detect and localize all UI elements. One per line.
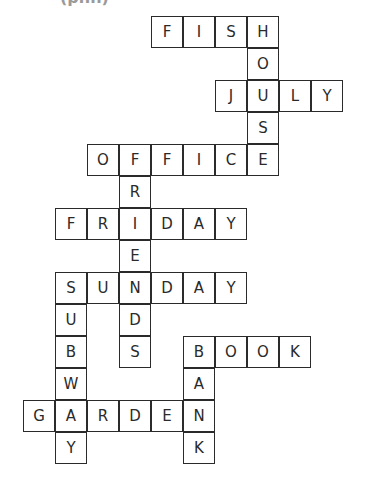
crossword-cell: F xyxy=(119,144,151,176)
crossword-cell: Y xyxy=(215,272,247,304)
crossword-cell: N xyxy=(183,400,215,432)
crossword-cell: R xyxy=(87,208,119,240)
crossword-cell: D xyxy=(151,272,183,304)
crossword-cell: F xyxy=(151,16,183,48)
crossword-cell: O xyxy=(247,48,279,80)
crossword-cell: E xyxy=(247,144,279,176)
crossword-cell: Y xyxy=(311,80,343,112)
crossword-cell: E xyxy=(151,400,183,432)
crossword-cell: K xyxy=(279,336,311,368)
crossword-grid: FISHOUSEJLYOFFICRIENDSFRDAYSUDAYUBWAYBOO… xyxy=(0,0,366,486)
crossword-cell: B xyxy=(183,336,215,368)
crossword-cell: O xyxy=(215,336,247,368)
crossword-cell: R xyxy=(87,400,119,432)
crossword-cell: I xyxy=(183,16,215,48)
crossword-cell: D xyxy=(119,400,151,432)
crossword-cell: D xyxy=(151,208,183,240)
crossword-cell: W xyxy=(55,368,87,400)
crossword-cell: G xyxy=(23,400,55,432)
crossword-cell: S xyxy=(247,112,279,144)
crossword-cell: D xyxy=(119,304,151,336)
crossword-cell: H xyxy=(247,16,279,48)
crossword-cell: A xyxy=(183,272,215,304)
crossword-cell: O xyxy=(87,144,119,176)
crossword-cell: U xyxy=(55,304,87,336)
crossword-cell: S xyxy=(215,16,247,48)
crossword-cell: K xyxy=(183,432,215,464)
crossword-cell: A xyxy=(183,208,215,240)
crossword-cell: L xyxy=(279,80,311,112)
crossword-cell: O xyxy=(247,336,279,368)
crossword-cell: S xyxy=(55,272,87,304)
crossword-cell: U xyxy=(87,272,119,304)
crossword-cell: C xyxy=(215,144,247,176)
crossword-cell: Y xyxy=(215,208,247,240)
crossword-cell: U xyxy=(247,80,279,112)
crossword-cell: F xyxy=(151,144,183,176)
crossword-cell: S xyxy=(119,336,151,368)
crossword-cell: Y xyxy=(55,432,87,464)
crossword-cell: F xyxy=(55,208,87,240)
crossword-cell: A xyxy=(55,400,87,432)
crossword-cell: R xyxy=(119,176,151,208)
crossword-cell: E xyxy=(119,240,151,272)
crossword-cell: N xyxy=(119,272,151,304)
crossword-cell: A xyxy=(183,368,215,400)
crossword-cell: I xyxy=(183,144,215,176)
crossword-cell: J xyxy=(215,80,247,112)
crossword-cell: I xyxy=(119,208,151,240)
crossword-cell: B xyxy=(55,336,87,368)
